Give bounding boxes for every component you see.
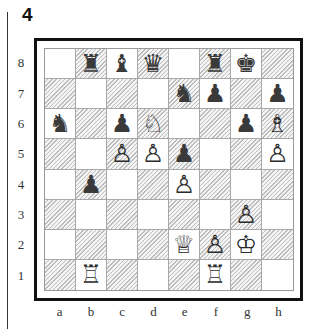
square-e7[interactable]: ♞ — [169, 79, 200, 109]
square-e1[interactable] — [169, 260, 200, 290]
square-b4[interactable]: ♟ — [76, 170, 107, 200]
square-g4[interactable] — [231, 170, 262, 200]
square-h7[interactable]: ♟ — [262, 79, 293, 109]
square-b8[interactable]: ♜ — [76, 49, 107, 79]
square-f5[interactable] — [200, 139, 231, 169]
square-g1[interactable] — [231, 260, 262, 290]
square-f7[interactable]: ♟ — [200, 79, 231, 109]
black-pawn-icon[interactable]: ♟ — [80, 172, 102, 197]
square-g5[interactable] — [231, 139, 262, 169]
white-pawn-icon[interactable]: ♙ — [235, 202, 257, 227]
margin-rule — [7, 12, 8, 329]
square-h6[interactable]: ♗ — [262, 109, 293, 139]
white-pawn-icon[interactable]: ♙ — [142, 141, 164, 166]
square-h4[interactable] — [262, 170, 293, 200]
square-h8[interactable] — [262, 49, 293, 79]
square-b6[interactable] — [76, 109, 107, 139]
black-pawn-icon[interactable]: ♟ — [235, 111, 257, 136]
white-queen-icon[interactable]: ♕ — [173, 232, 195, 257]
black-queen-icon[interactable]: ♛ — [142, 51, 164, 76]
square-c8[interactable]: ♝ — [107, 49, 138, 79]
square-f1[interactable]: ♖ — [200, 260, 231, 290]
square-a7[interactable] — [45, 79, 76, 109]
square-d3[interactable] — [138, 200, 169, 230]
white-rook-icon[interactable]: ♖ — [80, 262, 102, 287]
white-bishop-icon[interactable]: ♗ — [266, 111, 288, 136]
square-d4[interactable] — [138, 170, 169, 200]
square-g2[interactable]: ♔ — [231, 230, 262, 260]
rank-label-6: 6 — [14, 116, 28, 132]
square-e6[interactable] — [169, 109, 200, 139]
square-c4[interactable] — [107, 170, 138, 200]
square-e8[interactable] — [169, 49, 200, 79]
square-f2[interactable]: ♙ — [200, 230, 231, 260]
square-d6[interactable]: ♘ — [138, 109, 169, 139]
square-b2[interactable] — [76, 230, 107, 260]
square-a1[interactable] — [45, 260, 76, 290]
square-a2[interactable] — [45, 230, 76, 260]
rank-label-7: 7 — [14, 86, 28, 102]
white-pawn-icon[interactable]: ♙ — [266, 141, 288, 166]
square-d1[interactable] — [138, 260, 169, 290]
square-h2[interactable] — [262, 230, 293, 260]
square-c1[interactable] — [107, 260, 138, 290]
black-knight-icon[interactable]: ♞ — [49, 111, 71, 136]
white-pawn-icon[interactable]: ♙ — [173, 172, 195, 197]
white-pawn-icon[interactable]: ♙ — [111, 141, 133, 166]
square-e3[interactable] — [169, 200, 200, 230]
black-pawn-icon[interactable]: ♟ — [111, 111, 133, 136]
black-bishop-icon[interactable]: ♝ — [111, 51, 133, 76]
rank-label-1: 1 — [14, 268, 28, 284]
square-g8[interactable]: ♚ — [231, 49, 262, 79]
square-g6[interactable]: ♟ — [231, 109, 262, 139]
white-king-icon[interactable]: ♔ — [235, 232, 257, 257]
rank-label-2: 2 — [14, 237, 28, 253]
square-f4[interactable] — [200, 170, 231, 200]
black-king-icon[interactable]: ♚ — [235, 51, 257, 76]
square-c3[interactable] — [107, 200, 138, 230]
square-h3[interactable] — [262, 200, 293, 230]
square-g7[interactable] — [231, 79, 262, 109]
black-knight-icon[interactable]: ♞ — [173, 81, 195, 106]
square-e2[interactable]: ♕ — [169, 230, 200, 260]
square-a6[interactable]: ♞ — [45, 109, 76, 139]
square-b7[interactable] — [76, 79, 107, 109]
square-c6[interactable]: ♟ — [107, 109, 138, 139]
square-a5[interactable] — [45, 139, 76, 169]
file-label-b: b — [81, 304, 101, 320]
black-rook-icon[interactable]: ♜ — [204, 51, 226, 76]
square-e5[interactable]: ♟ — [169, 139, 200, 169]
black-rook-icon[interactable]: ♜ — [80, 51, 102, 76]
square-d2[interactable] — [138, 230, 169, 260]
square-c7[interactable] — [107, 79, 138, 109]
rank-label-4: 4 — [14, 177, 28, 193]
square-b1[interactable]: ♖ — [76, 260, 107, 290]
square-b3[interactable] — [76, 200, 107, 230]
white-knight-icon[interactable]: ♘ — [142, 111, 164, 136]
file-label-g: g — [237, 304, 257, 320]
square-f3[interactable] — [200, 200, 231, 230]
white-pawn-icon[interactable]: ♙ — [204, 232, 226, 257]
square-h5[interactable]: ♙ — [262, 139, 293, 169]
square-f6[interactable] — [200, 109, 231, 139]
square-c2[interactable] — [107, 230, 138, 260]
rank-label-3: 3 — [14, 207, 28, 223]
square-f8[interactable]: ♜ — [200, 49, 231, 79]
black-pawn-icon[interactable]: ♟ — [204, 81, 226, 106]
square-d8[interactable]: ♛ — [138, 49, 169, 79]
file-label-d: d — [143, 304, 163, 320]
square-b5[interactable] — [76, 139, 107, 169]
square-g3[interactable]: ♙ — [231, 200, 262, 230]
square-a3[interactable] — [45, 200, 76, 230]
square-a4[interactable] — [45, 170, 76, 200]
black-pawn-icon[interactable]: ♟ — [173, 141, 195, 166]
square-d5[interactable]: ♙ — [138, 139, 169, 169]
white-rook-icon[interactable]: ♖ — [204, 262, 226, 287]
square-h1[interactable] — [262, 260, 293, 290]
square-e4[interactable]: ♙ — [169, 170, 200, 200]
black-pawn-icon[interactable]: ♟ — [266, 81, 288, 106]
diagram-number: 4 — [22, 4, 33, 26]
square-c5[interactable]: ♙ — [107, 139, 138, 169]
square-a8[interactable] — [45, 49, 76, 79]
square-d7[interactable] — [138, 79, 169, 109]
